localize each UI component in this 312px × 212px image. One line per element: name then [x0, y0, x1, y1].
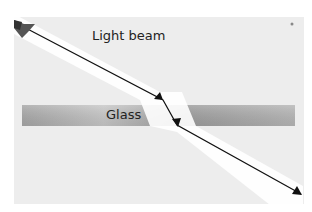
light-beam-label: Light beam	[92, 28, 165, 43]
glass-label: Glass	[106, 107, 141, 122]
marker-dot	[291, 23, 294, 26]
